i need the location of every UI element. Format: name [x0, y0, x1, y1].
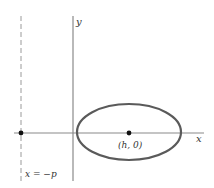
diagram-canvas: y x (h, 0) x = −p [0, 0, 214, 188]
directrix-point [19, 131, 24, 136]
center-label: (h, 0) [118, 140, 143, 150]
y-axis-label: y [75, 16, 82, 27]
x-axis-label: x [196, 133, 202, 144]
directrix-label: x = −p [25, 169, 57, 179]
center-point [127, 131, 132, 136]
